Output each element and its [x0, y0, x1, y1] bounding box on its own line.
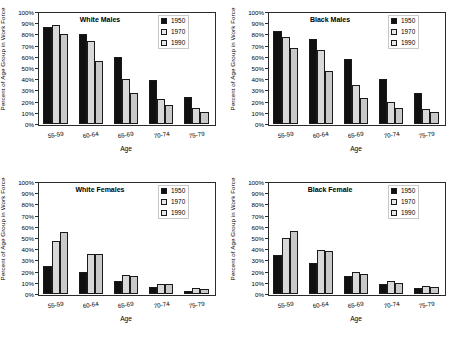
y-axis-tick-label: 90%	[236, 190, 264, 197]
bar-1950-70-74	[379, 79, 387, 124]
bar-1990-70-74	[165, 105, 173, 124]
bar-1950-70-74	[379, 284, 387, 294]
bar-1990-70-74	[165, 284, 173, 294]
y-axis-tick-label: 30%	[236, 87, 264, 94]
bar-1950-75-79	[414, 288, 422, 294]
legend: 195019701990	[158, 15, 189, 49]
y-axis-tick-label: 0%	[236, 121, 264, 128]
y-axis-tick-label: 50%	[236, 235, 264, 242]
legend-label: 1990	[401, 210, 415, 216]
legend-item-1970[interactable]: 1970	[161, 29, 185, 35]
bar-1990-75-79	[200, 289, 208, 294]
legend-swatch-1970	[161, 29, 167, 35]
bar-1990-75-79	[200, 112, 208, 124]
y-axis-tick-label: 60%	[236, 223, 264, 230]
x-axis-tick-label: 60-64	[303, 128, 339, 140]
bar-group	[303, 182, 338, 294]
legend-swatch-1970	[391, 199, 397, 205]
bar-1950-55-59	[273, 255, 281, 294]
legend-item-1950[interactable]: 1950	[391, 188, 415, 194]
y-axis-tick-label: 90%	[6, 190, 34, 197]
bar-1950-65-69	[114, 281, 122, 294]
x-axis-tick-label: 60-64	[303, 298, 339, 310]
legend-item-1990[interactable]: 1990	[161, 40, 185, 46]
bar-1950-60-64	[79, 272, 87, 294]
bar-1970-70-74	[387, 102, 395, 124]
legend-swatch-1990	[161, 40, 167, 46]
legend-item-1990[interactable]: 1990	[391, 210, 415, 216]
bar-1990-60-64	[325, 251, 333, 294]
bar-1990-55-59	[60, 232, 68, 294]
legend-swatch-1950	[161, 188, 167, 194]
x-axis-title: Age	[38, 145, 214, 152]
bar-1970-55-59	[282, 238, 290, 294]
x-axis-tick-label: 75-79	[178, 128, 214, 140]
legend-item-1970[interactable]: 1970	[391, 199, 415, 205]
x-axis-tick-label: 70-74	[373, 128, 409, 140]
legend-item-1990[interactable]: 1990	[161, 210, 185, 216]
y-axis-title-text: Percent of Age Group in Work Force	[229, 0, 236, 124]
legend-swatch-1990	[161, 210, 167, 216]
bar-group	[73, 182, 108, 294]
x-axis-tick-label: 55-59	[38, 298, 74, 310]
y-axis-tick-label: 0%	[6, 291, 34, 298]
bar-1950-55-59	[273, 31, 281, 124]
legend-swatch-1950	[391, 18, 397, 24]
x-axis-title: Age	[268, 315, 444, 322]
y-axis-tick-label: 20%	[236, 98, 264, 105]
legend-item-1990[interactable]: 1990	[391, 40, 415, 46]
y-axis-title-text: Percent of Age Group in Work Force	[229, 164, 236, 294]
figure-grid: Percent of Age Group in Work Force0%10%2…	[0, 0, 460, 340]
y-axis-tick-label: 20%	[6, 98, 34, 105]
y-axis-tick-mark	[35, 124, 38, 125]
legend-label: 1950	[401, 188, 415, 194]
legend-item-1970[interactable]: 1970	[161, 199, 185, 205]
y-axis-tick-label: 50%	[6, 65, 34, 72]
chart-panel-4: Percent of Age Group in Work Force0%10%2…	[230, 170, 460, 340]
legend-label: 1970	[401, 199, 415, 205]
bar-group	[338, 12, 373, 124]
bar-1970-60-64	[317, 50, 325, 124]
legend-item-1950[interactable]: 1950	[161, 188, 185, 194]
y-axis-tick-label: 40%	[6, 246, 34, 253]
bar-1950-70-74	[149, 287, 157, 294]
y-axis-tick-label: 50%	[236, 65, 264, 72]
bar-1950-60-64	[79, 34, 87, 124]
legend-swatch-1970	[391, 29, 397, 35]
x-axis-tick-label: 55-59	[268, 298, 304, 310]
bar-1990-65-69	[130, 93, 138, 124]
y-axis-tick-label: 80%	[6, 31, 34, 38]
legend-item-1970[interactable]: 1970	[391, 29, 415, 35]
bar-1950-65-69	[344, 59, 352, 124]
bar-1970-75-79	[422, 109, 430, 124]
y-axis-tick-label: 60%	[236, 53, 264, 60]
bar-group	[73, 12, 108, 124]
x-axis-tick-label: 70-74	[373, 298, 409, 310]
legend-label: 1950	[171, 18, 185, 24]
y-axis-tick-label: 50%	[6, 235, 34, 242]
y-axis-tick-mark	[35, 294, 38, 295]
y-axis-tick-label: 80%	[236, 31, 264, 38]
y-axis-tick-label: 90%	[6, 20, 34, 27]
y-axis-tick-label: 20%	[236, 268, 264, 275]
legend-label: 1970	[171, 29, 185, 35]
legend-swatch-1950	[391, 188, 397, 194]
legend-item-1950[interactable]: 1950	[391, 18, 415, 24]
bar-1970-65-69	[352, 272, 360, 294]
bar-1970-65-69	[352, 85, 360, 124]
y-axis-tick-label: 10%	[6, 279, 34, 286]
legend-item-1950[interactable]: 1950	[161, 18, 185, 24]
bar-group	[38, 12, 73, 124]
legend-label: 1990	[171, 40, 185, 46]
y-axis-tick-label: 60%	[6, 53, 34, 60]
bar-1950-75-79	[184, 291, 192, 294]
bar-1950-65-69	[344, 276, 352, 294]
y-axis-tick-label: 30%	[6, 257, 34, 264]
bar-group	[268, 182, 303, 294]
bar-1970-70-74	[157, 284, 165, 294]
bar-1990-75-79	[430, 287, 438, 294]
y-axis-tick-label: 80%	[236, 201, 264, 208]
legend-label: 1970	[401, 29, 415, 35]
legend-swatch-1970	[161, 199, 167, 205]
chart-title: Black Female	[282, 186, 378, 193]
